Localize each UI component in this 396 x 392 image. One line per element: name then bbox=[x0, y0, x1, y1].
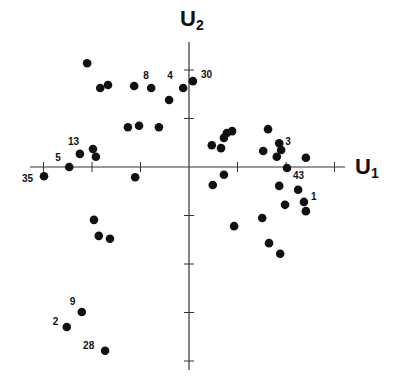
data-point bbox=[96, 84, 105, 93]
data-point bbox=[179, 84, 188, 93]
data-point bbox=[302, 153, 311, 162]
data-point bbox=[264, 125, 273, 134]
data-point bbox=[147, 84, 156, 93]
data-point bbox=[230, 222, 239, 231]
point-label: 28 bbox=[83, 340, 95, 351]
data-point bbox=[101, 347, 110, 356]
data-point bbox=[275, 182, 284, 191]
data-point bbox=[217, 144, 226, 153]
point-label: 4 bbox=[167, 70, 173, 81]
data-point bbox=[106, 234, 115, 243]
data-point bbox=[220, 170, 229, 179]
data-point bbox=[165, 96, 174, 105]
scatter-plot: 84301353534319228 bbox=[0, 0, 396, 392]
data-point bbox=[62, 323, 71, 332]
data-point bbox=[135, 121, 144, 130]
data-point bbox=[294, 185, 303, 194]
data-point bbox=[258, 214, 267, 223]
point-label: 1 bbox=[311, 191, 317, 202]
point-labels: 84301353534319228 bbox=[22, 69, 317, 351]
point-label: 5 bbox=[55, 152, 61, 163]
data-point bbox=[40, 172, 49, 181]
point-label: 43 bbox=[293, 170, 305, 181]
data-point bbox=[302, 207, 311, 216]
data-point bbox=[228, 127, 237, 136]
data-point bbox=[131, 173, 140, 182]
data-point bbox=[83, 59, 92, 68]
point-label: 35 bbox=[22, 173, 34, 184]
data-point bbox=[76, 150, 85, 159]
data-point bbox=[265, 239, 274, 248]
data-point bbox=[130, 82, 139, 91]
point-label: 2 bbox=[53, 316, 59, 327]
data-point bbox=[104, 81, 113, 90]
data-point bbox=[124, 123, 133, 132]
point-label: 8 bbox=[143, 70, 149, 81]
data-points bbox=[40, 59, 311, 355]
x-axis-title: U1 bbox=[355, 156, 379, 180]
data-point bbox=[207, 141, 216, 150]
data-point bbox=[281, 201, 290, 210]
data-point bbox=[189, 77, 198, 86]
data-point bbox=[92, 153, 101, 162]
data-point bbox=[208, 181, 217, 190]
y-axis-title: U2 bbox=[180, 8, 204, 32]
x-axis-title-sub: 1 bbox=[371, 165, 379, 181]
x-axis-title-main: U bbox=[355, 154, 371, 179]
data-point bbox=[259, 147, 268, 156]
data-point bbox=[155, 123, 164, 132]
y-axis-title-main: U bbox=[180, 6, 196, 31]
y-axis-title-sub: 2 bbox=[196, 17, 204, 33]
data-point bbox=[89, 145, 98, 154]
data-point bbox=[78, 308, 87, 317]
point-label: 30 bbox=[201, 69, 213, 80]
data-point bbox=[94, 232, 103, 241]
data-point bbox=[90, 216, 99, 225]
data-point bbox=[276, 250, 285, 259]
data-point bbox=[272, 153, 281, 162]
data-point bbox=[300, 198, 309, 207]
axes bbox=[30, 42, 345, 370]
point-label: 9 bbox=[70, 296, 76, 307]
data-point bbox=[283, 164, 292, 173]
data-point bbox=[65, 163, 74, 172]
point-label: 3 bbox=[285, 136, 291, 147]
point-label: 13 bbox=[68, 136, 80, 147]
